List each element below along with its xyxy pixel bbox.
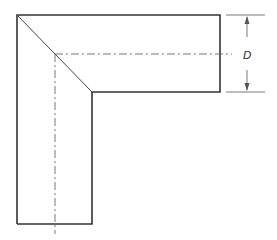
dimension-arrow-top bbox=[245, 16, 250, 37]
dimension-arrow-bottom bbox=[245, 70, 250, 91]
diagram-canvas: D bbox=[0, 0, 277, 240]
miter-line bbox=[17, 15, 92, 92]
l-bend-diagram: D bbox=[0, 0, 277, 240]
dimension-label: D bbox=[243, 49, 251, 62]
